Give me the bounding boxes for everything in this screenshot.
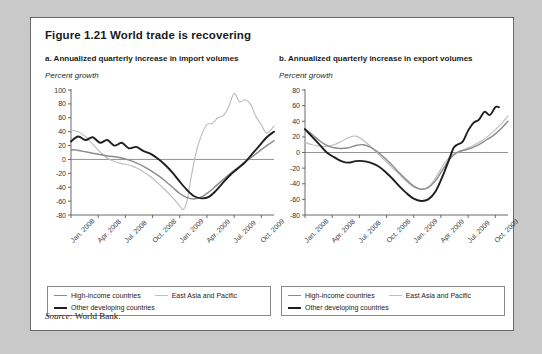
y-tick-label: 80 bbox=[292, 87, 300, 94]
y-tick-label: -60 bbox=[290, 196, 300, 203]
source-value: World Bank. bbox=[73, 311, 121, 321]
panel-b-plot: 806040200-20-40-60-80 bbox=[279, 84, 511, 239]
panel-b-legend: High-income countries East Asia and Paci… bbox=[281, 286, 505, 316]
y-tick-label: 40 bbox=[292, 118, 300, 125]
series-line-east-asia-and-pacific bbox=[71, 93, 274, 209]
y-tick-label: -40 bbox=[56, 184, 66, 191]
legend-row-top: High-income countries East Asia and Paci… bbox=[288, 292, 471, 299]
legend-label-east-asia: East Asia and Pacific bbox=[406, 292, 471, 299]
y-tick-label: 100 bbox=[54, 87, 66, 94]
chart-panel-export-volumes: b. Annualized quarterly increase in expo… bbox=[279, 54, 511, 304]
legend-label-high-income: High-income countries bbox=[305, 292, 375, 299]
legend-label-east-asia: East Asia and Pacific bbox=[172, 292, 237, 299]
panel-a-svg: 100806040200-20-40-60-80 bbox=[45, 84, 277, 239]
legend-swatch-other-developing bbox=[288, 307, 301, 309]
y-tick-label: 20 bbox=[58, 142, 66, 149]
legend-row-top: High-income countries East Asia and Paci… bbox=[54, 292, 237, 299]
y-tick-label: -20 bbox=[56, 170, 66, 177]
panel-b-title: b. Annualized quarterly increase in expo… bbox=[279, 54, 473, 63]
series-line-other-developing-countries bbox=[71, 132, 274, 199]
y-tick-label: -60 bbox=[56, 198, 66, 205]
legend-swatch-east-asia bbox=[389, 295, 402, 296]
panel-b-xaxis-labels: Jan. 2008Apr. 2008Jul. 2008Oct. 2008Jan.… bbox=[279, 237, 511, 287]
y-tick-label: 0 bbox=[296, 149, 300, 156]
legend-item-high-income: High-income countries bbox=[54, 292, 141, 299]
panel-b-ylabel: Percent growth bbox=[279, 71, 333, 80]
series-line-high-income-countries bbox=[305, 121, 508, 189]
panel-a-title: a. Annualized quarterly increase in impo… bbox=[45, 54, 239, 63]
y-tick-label: -80 bbox=[290, 212, 300, 219]
y-tick-label: 40 bbox=[58, 128, 66, 135]
legend-swatch-east-asia bbox=[155, 295, 168, 296]
legend-label-other-developing: Other developing countries bbox=[71, 304, 155, 311]
chart-panel-import-volumes: a. Annualized quarterly increase in impo… bbox=[45, 54, 277, 304]
legend-item-high-income: High-income countries bbox=[288, 292, 375, 299]
legend-item-east-asia: East Asia and Pacific bbox=[155, 292, 237, 299]
panel-b-svg: 806040200-20-40-60-80 bbox=[279, 84, 511, 239]
legend-item-other-developing: Other developing countries bbox=[288, 304, 389, 311]
source-prefix: Source: bbox=[45, 311, 73, 321]
y-tick-label: -80 bbox=[56, 212, 66, 219]
panel-a-plot: 100806040200-20-40-60-80 bbox=[45, 84, 277, 239]
y-tick-label: 60 bbox=[292, 102, 300, 109]
series-line-other-developing-countries bbox=[305, 107, 499, 201]
legend-row-bottom: Other developing countries bbox=[288, 304, 389, 311]
figure-title: Figure 1.21 World trade is recovering bbox=[45, 29, 251, 41]
y-tick-label: 20 bbox=[292, 133, 300, 140]
legend-label-high-income: High-income countries bbox=[71, 292, 141, 299]
panel-a-ylabel: Percent growth bbox=[45, 71, 99, 80]
legend-item-other-developing: Other developing countries bbox=[54, 304, 155, 311]
legend-label-other-developing: Other developing countries bbox=[305, 304, 389, 311]
source-note: Source: World Bank. bbox=[45, 311, 121, 321]
legend-swatch-other-developing bbox=[54, 307, 67, 309]
y-tick-label: 80 bbox=[58, 100, 66, 107]
figure-container: Figure 1.21 World trade is recovering a.… bbox=[30, 17, 514, 331]
legend-swatch-high-income bbox=[288, 295, 301, 296]
y-tick-label: -20 bbox=[290, 165, 300, 172]
y-tick-label: 0 bbox=[62, 156, 66, 163]
legend-item-east-asia: East Asia and Pacific bbox=[389, 292, 471, 299]
series-line-high-income-countries bbox=[71, 141, 274, 199]
legend-swatch-high-income bbox=[54, 295, 67, 296]
panel-a-xaxis-labels: Jan. 2008Apr. 2008Jul. 2008Oct. 2008Jan.… bbox=[45, 237, 277, 287]
y-tick-label: 60 bbox=[58, 114, 66, 121]
legend-row-bottom: Other developing countries bbox=[54, 304, 155, 311]
y-tick-label: -40 bbox=[290, 180, 300, 187]
page-background: Figure 1.21 World trade is recovering a.… bbox=[0, 0, 542, 354]
